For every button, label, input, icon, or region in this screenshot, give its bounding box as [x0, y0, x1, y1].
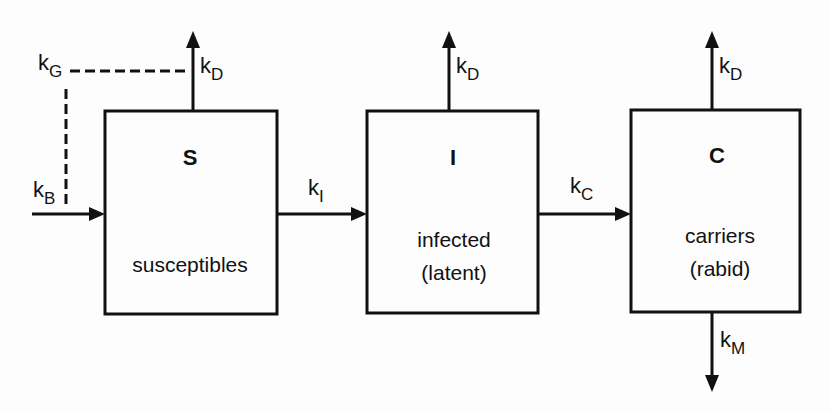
arrowhead-icon — [705, 31, 719, 48]
arrowhead-icon — [351, 207, 367, 221]
rate-label-ki: kI — [308, 175, 324, 206]
compartment-c-box — [631, 110, 800, 312]
rate-label-kb: kB — [33, 177, 55, 208]
compartment-s-symbol: S — [183, 145, 198, 170]
rate-label-kd-i: kD — [456, 53, 479, 84]
compartment-i-sub: (latent) — [421, 261, 486, 284]
compartment-c-sub: (rabid) — [690, 257, 751, 280]
compartment-c-symbol: C — [709, 143, 725, 168]
compartment-c-name: carriers — [685, 224, 755, 247]
rate-label-kc: kC — [570, 173, 593, 204]
arrowhead-icon — [186, 31, 200, 48]
compartment-diagram: S susceptibles I infected (latent) C car… — [0, 0, 830, 412]
arrowhead-icon — [705, 375, 719, 392]
rate-label-kg: kG — [38, 50, 62, 81]
compartment-i-symbol: I — [450, 145, 456, 170]
rate-label-km: kM — [720, 327, 745, 358]
compartment-i-name: infected — [417, 228, 491, 251]
arrowhead-icon — [615, 207, 631, 221]
compartment-s-name: susceptibles — [132, 253, 248, 276]
arrowhead-icon — [89, 207, 105, 221]
arrowhead-icon — [442, 31, 456, 48]
rate-label-kd-s: kD — [200, 53, 223, 84]
compartment-s-box — [105, 111, 277, 314]
rate-label-kd-c: kD — [719, 53, 742, 84]
